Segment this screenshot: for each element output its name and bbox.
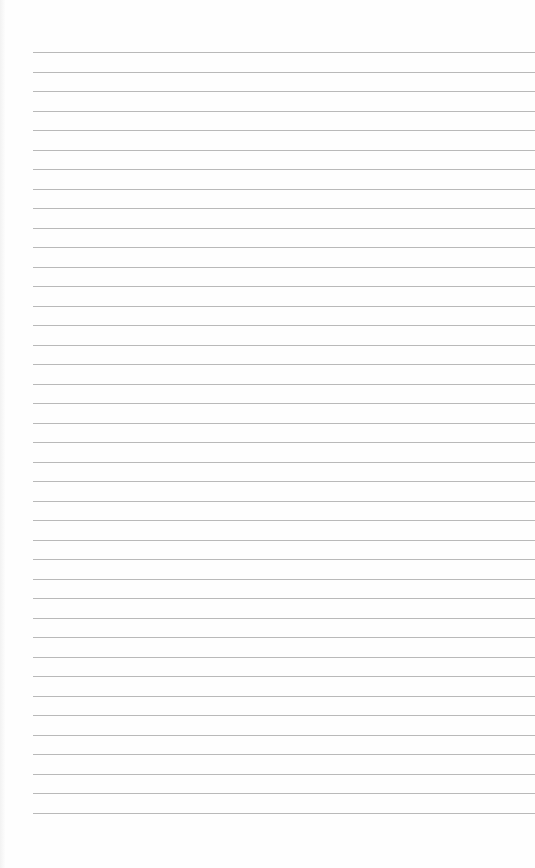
ruled-lines xyxy=(33,0,535,868)
ruled-line xyxy=(33,637,535,638)
ruled-line xyxy=(33,91,535,92)
ruled-line xyxy=(33,325,535,326)
ruled-line xyxy=(33,384,535,385)
ruled-line xyxy=(33,813,535,814)
ruled-line xyxy=(33,423,535,424)
ruled-line xyxy=(33,559,535,560)
ruled-line xyxy=(33,169,535,170)
ruled-line xyxy=(33,579,535,580)
ruled-line xyxy=(33,345,535,346)
ruled-line xyxy=(33,72,535,73)
ruled-line xyxy=(33,462,535,463)
ruled-line xyxy=(33,598,535,599)
ruled-line xyxy=(33,150,535,151)
lined-paper-page xyxy=(0,0,535,868)
page-edge-shadow xyxy=(0,0,6,868)
ruled-line xyxy=(33,286,535,287)
ruled-line xyxy=(33,481,535,482)
ruled-line xyxy=(33,501,535,502)
ruled-line xyxy=(33,442,535,443)
ruled-line xyxy=(33,754,535,755)
ruled-line xyxy=(33,676,535,677)
ruled-line xyxy=(33,247,535,248)
ruled-line xyxy=(33,306,535,307)
ruled-line xyxy=(33,52,535,53)
ruled-line xyxy=(33,111,535,112)
ruled-line xyxy=(33,793,535,794)
ruled-line xyxy=(33,520,535,521)
ruled-line xyxy=(33,735,535,736)
ruled-line xyxy=(33,774,535,775)
ruled-line xyxy=(33,189,535,190)
ruled-line xyxy=(33,267,535,268)
ruled-line xyxy=(33,540,535,541)
ruled-line xyxy=(33,228,535,229)
ruled-line xyxy=(33,618,535,619)
ruled-line xyxy=(33,364,535,365)
ruled-line xyxy=(33,208,535,209)
ruled-line xyxy=(33,696,535,697)
ruled-line xyxy=(33,657,535,658)
ruled-line xyxy=(33,403,535,404)
ruled-line xyxy=(33,130,535,131)
ruled-line xyxy=(33,715,535,716)
